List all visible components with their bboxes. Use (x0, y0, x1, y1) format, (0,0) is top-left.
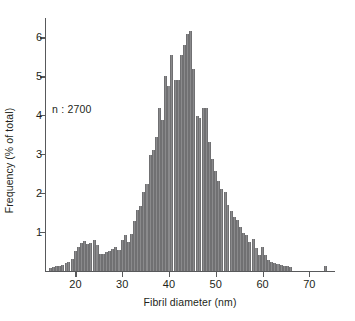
x-tick-label: 20 (69, 279, 81, 290)
plot-area: 123456 203040506070 (45, 18, 335, 272)
y-tick-label: 6 (36, 32, 42, 43)
y-tick-label: 1 (36, 227, 42, 238)
y-tick-label: 4 (36, 110, 42, 121)
x-tick-label: 30 (116, 279, 128, 290)
histogram-bars (46, 18, 335, 271)
x-tick (122, 272, 123, 277)
y-tick-label: 3 (36, 149, 42, 160)
x-tick (263, 272, 264, 277)
x-tick (309, 272, 310, 277)
x-axis-title: Fibril diameter (nm) (45, 296, 335, 308)
histogram-bar (289, 267, 292, 271)
x-tick-label: 60 (256, 279, 268, 290)
x-tick (75, 272, 76, 277)
x-axis-line (45, 271, 335, 272)
y-tick-label: 5 (36, 71, 42, 82)
x-tick-label: 50 (210, 279, 222, 290)
histogram-bar (324, 266, 327, 271)
x-tick-label: 40 (163, 279, 175, 290)
histogram-figure: Frequency (% of total) 123456 2030405060… (0, 0, 355, 321)
y-tick-label: 2 (36, 188, 42, 199)
x-tick (216, 272, 217, 277)
sample-size-annotation: n : 2700 (52, 103, 92, 115)
y-axis-title: Frequency (% of total) (0, 0, 18, 321)
x-tick (169, 272, 170, 277)
x-tick-label: 70 (303, 279, 315, 290)
